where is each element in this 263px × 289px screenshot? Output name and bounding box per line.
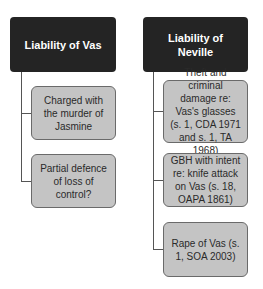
vas-loss-of-control-node: Partial defence of loss of control? [31,154,116,208]
liability-of-vas-header: Liability of Vas [10,17,116,72]
neville-gbh-node: GBH with intent re: knife attack on Vas … [163,153,248,207]
header-label: Liability of Neville [151,31,240,59]
right-trunk-connector [153,72,154,250]
liability-of-neville-header: Liability of Neville [143,17,248,72]
right-branch-connector-2 [153,180,163,181]
right-branch-connector-3 [153,249,163,250]
node-label: Theft and criminal damage re: Vas's glas… [169,66,242,157]
left-branch-connector-2 [21,181,31,182]
node-label: Partial defence of loss of control? [37,162,110,201]
left-branch-connector-1 [21,113,31,114]
right-branch-connector-1 [153,111,163,112]
left-trunk-connector [21,72,22,181]
header-label: Liability of Vas [24,38,101,52]
vas-murder-charge-node: Charged with the murder of Jasmine [31,86,116,140]
neville-theft-damage-node: Theft and criminal damage re: Vas's glas… [163,80,248,143]
node-label: Rape of Vas (s. 1, SOA 2003) [169,237,242,263]
node-label: GBH with intent re: knife attack on Vas … [169,154,242,206]
node-label: Charged with the murder of Jasmine [37,94,110,133]
neville-rape-node: Rape of Vas (s. 1, SOA 2003) [163,222,248,277]
